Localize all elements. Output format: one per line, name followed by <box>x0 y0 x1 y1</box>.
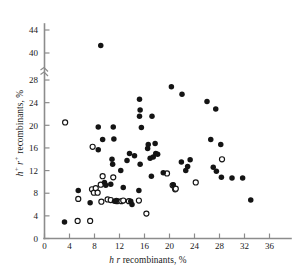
y-tick-label-24: 24 <box>29 98 39 108</box>
data-point-open-20 <box>144 211 149 216</box>
data-point-filled-53 <box>229 175 235 181</box>
data-point-filled-27 <box>137 162 143 168</box>
data-point-filled-44 <box>185 164 191 170</box>
scatter-plot-figure: 04812162024283236 04812162024284044 h r … <box>0 0 296 274</box>
open-circle-series <box>63 120 225 224</box>
data-point-filled-6 <box>100 137 106 143</box>
data-point-filled-50 <box>214 168 220 174</box>
y-axis-title-plain: recombinants, % <box>15 90 25 156</box>
data-point-open-8 <box>95 190 100 195</box>
data-point-open-17 <box>121 198 126 203</box>
data-point-filled-3 <box>96 124 102 130</box>
data-point-open-10 <box>100 174 105 179</box>
data-point-open-26 <box>219 157 224 162</box>
data-point-filled-8 <box>103 183 109 189</box>
x-tick-label-8: 8 <box>92 241 97 251</box>
data-point-filled-4 <box>98 43 104 49</box>
x-tick-label-4: 4 <box>67 241 72 251</box>
filled-circle-series <box>62 43 254 225</box>
data-point-open-2 <box>76 196 81 201</box>
x-tick-label-20: 20 <box>165 241 175 251</box>
data-point-filled-28 <box>137 114 143 120</box>
data-point-filled-39 <box>169 84 175 90</box>
data-point-filled-21 <box>129 202 135 208</box>
data-point-filled-24 <box>137 107 143 113</box>
data-point-open-1 <box>75 218 80 223</box>
x-tick-label-28: 28 <box>215 241 225 251</box>
data-point-filled-49 <box>213 106 219 112</box>
y-tick-label-28: 28 <box>29 75 39 85</box>
y-axis-title: h+ r+ recombinants, % <box>13 58 25 208</box>
data-point-filled-40 <box>171 182 177 188</box>
y-axis-title-h: h <box>15 172 25 177</box>
data-point-filled-19 <box>127 151 133 157</box>
x-tick-label-32: 32 <box>240 241 249 251</box>
data-point-filled-51 <box>218 142 224 148</box>
x-axis-title-plain: recombinants, % <box>120 255 186 265</box>
data-point-filled-35 <box>152 141 158 147</box>
data-point-filled-17 <box>121 185 127 191</box>
y-tick-label-group: 04812162024284044 <box>29 25 39 244</box>
y-tick-label-4: 4 <box>34 211 39 221</box>
data-point-filled-37 <box>155 151 161 157</box>
y-tick-label-44: 44 <box>29 25 39 35</box>
data-point-filled-26 <box>139 125 145 131</box>
data-point-filled-54 <box>240 175 246 181</box>
data-point-open-11 <box>99 199 104 204</box>
data-point-filled-12 <box>111 136 117 142</box>
y-axis-title-r: r <box>15 161 25 165</box>
x-tick-label-16: 16 <box>140 241 150 251</box>
data-point-open-0 <box>63 120 68 125</box>
data-point-filled-15 <box>114 198 120 204</box>
y-axis-title-r-sup: + <box>13 156 21 161</box>
data-point-filled-0 <box>62 219 68 225</box>
data-point-filled-23 <box>137 97 143 103</box>
data-point-filled-42 <box>179 159 185 165</box>
data-point-filled-55 <box>248 197 254 203</box>
axes-group <box>41 24 292 239</box>
data-point-filled-11 <box>111 124 117 130</box>
data-point-filled-2 <box>76 188 82 194</box>
y-tick-label-20: 20 <box>29 121 39 131</box>
data-point-filled-41 <box>179 91 185 97</box>
y-axis-title-h-sup: + <box>13 167 21 172</box>
data-point-filled-22 <box>132 153 138 159</box>
data-point-filled-9 <box>108 181 114 187</box>
data-point-open-19 <box>136 198 141 203</box>
y-tick-label-12: 12 <box>29 166 38 176</box>
data-point-filled-52 <box>219 175 225 181</box>
data-point-filled-47 <box>208 137 214 143</box>
data-point-filled-1 <box>87 200 93 206</box>
y-tick-label-8: 8 <box>34 188 39 198</box>
data-point-filled-5 <box>96 147 102 153</box>
data-point-filled-32 <box>149 173 155 179</box>
data-point-open-3 <box>88 218 93 223</box>
data-point-filled-30 <box>146 142 152 148</box>
y-tick-label-16: 16 <box>29 143 39 153</box>
data-point-filled-34 <box>149 114 155 120</box>
x-tick-label-group: 04812162024283236 <box>42 241 274 251</box>
x-axis-title: h r recombinants, % <box>0 255 296 265</box>
y-tick-label-0: 0 <box>34 234 39 244</box>
x-tick-label-12: 12 <box>115 241 124 251</box>
data-point-filled-38 <box>161 170 167 176</box>
data-point-filled-13 <box>109 157 115 163</box>
data-point-filled-18 <box>124 158 130 164</box>
x-tick-label-36: 36 <box>265 241 275 251</box>
data-point-filled-46 <box>204 99 210 105</box>
plot-canvas: 04812162024283236 04812162024284044 <box>0 0 296 274</box>
data-point-filled-10 <box>110 162 116 168</box>
x-axis-title-italic: h r <box>109 255 120 265</box>
data-point-filled-25 <box>136 188 142 194</box>
data-point-open-14 <box>111 175 116 180</box>
data-point-filled-16 <box>118 168 124 174</box>
data-point-filled-45 <box>187 157 193 163</box>
x-tick-label-24: 24 <box>190 241 200 251</box>
data-point-open-25 <box>193 180 198 185</box>
y-tick-label-40: 40 <box>29 48 39 58</box>
data-point-open-4 <box>90 144 95 149</box>
x-tick-label-0: 0 <box>42 241 47 251</box>
